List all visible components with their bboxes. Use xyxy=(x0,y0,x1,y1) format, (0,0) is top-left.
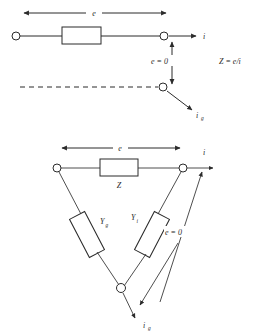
circuit-diagram-canvas: e i e = 0 xyxy=(0,0,266,335)
top-relation-label: Z = e/i xyxy=(219,57,241,66)
bottom-top-branch: Z xyxy=(61,159,179,190)
bottom-left-branch-subscript: g xyxy=(106,222,109,228)
top-return-conductor-group xyxy=(20,83,167,91)
top-relation-group: Z = e/i xyxy=(219,57,241,66)
bottom-null-voltage-label: e = 0 xyxy=(165,228,182,237)
bottom-generator-current-subscript: g xyxy=(148,325,151,331)
top-generator-current-arrow xyxy=(167,91,192,110)
top-diagram-group: e i e = 0 xyxy=(12,7,241,121)
bottom-current-label: i xyxy=(203,148,205,157)
bottom-generator-current-label: i xyxy=(143,321,145,330)
top-lower-terminal-node xyxy=(159,83,167,91)
bottom-generator-current-arrow xyxy=(123,293,135,318)
bottom-right-branch-subscript: i xyxy=(137,218,139,224)
top-right-terminal-node xyxy=(160,32,168,40)
top-generator-current-group: i g xyxy=(167,91,204,121)
top-current-label: i xyxy=(203,32,205,41)
bottom-bottom-vertex-node xyxy=(117,284,126,293)
top-dimension-arrow: e xyxy=(24,7,166,18)
bottom-left-vertex-node xyxy=(53,164,61,172)
bottom-right-branch-lower-wire xyxy=(124,254,146,286)
top-dimension-label: e xyxy=(92,9,96,18)
top-current-arrow-group: i xyxy=(169,32,205,41)
bottom-impedance-box xyxy=(100,159,138,176)
figure-root: e i e = 0 xyxy=(0,0,266,335)
bottom-right-vertex-node xyxy=(179,164,187,172)
bottom-left-branch: Y g xyxy=(59,172,119,285)
bottom-dimension-arrow: e xyxy=(62,142,180,153)
top-null-voltage-label: e = 0 xyxy=(151,57,168,66)
bottom-left-branch-upper-wire xyxy=(59,172,82,216)
bottom-current-arrow-group: i xyxy=(187,148,213,168)
bottom-impedance-label: Z xyxy=(117,181,122,190)
bottom-diagram-group: e Z Y g xyxy=(53,142,213,331)
bottom-generator-current-group: i g xyxy=(123,293,151,331)
bottom-dimension-label: e xyxy=(118,144,122,153)
bottom-right-branch-upper-wire xyxy=(158,172,181,214)
top-null-voltage-group: e = 0 xyxy=(150,42,176,84)
top-impedance-box xyxy=(62,27,101,44)
bottom-left-branch-lower-wire xyxy=(97,252,119,285)
top-series-branch xyxy=(12,27,168,44)
top-generator-current-subscript: g xyxy=(201,115,204,121)
top-generator-current-label: i xyxy=(196,111,198,120)
top-left-terminal-node xyxy=(12,32,20,40)
